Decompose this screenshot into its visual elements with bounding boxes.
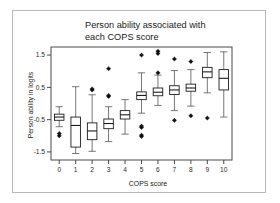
figure-root: Person ability associated with each COPS… bbox=[0, 0, 280, 203]
x-tick-label: 6 bbox=[156, 166, 160, 173]
boxplot-box bbox=[137, 53, 147, 139]
y-tick-label: 0.5 bbox=[36, 84, 45, 91]
x-tick-label: 5 bbox=[140, 166, 144, 173]
x-tick-label: 8 bbox=[189, 166, 193, 173]
boxplot-box bbox=[170, 57, 180, 123]
boxplot-box bbox=[104, 66, 114, 141]
boxplot-box bbox=[87, 87, 97, 152]
y-tick-label: 1.5 bbox=[36, 51, 45, 58]
y-axis: -1.5-0.50.51.5 bbox=[34, 51, 51, 155]
boxplot-box bbox=[203, 52, 213, 120]
box-iqr bbox=[71, 117, 81, 147]
x-tick-label: 2 bbox=[90, 166, 94, 173]
box-iqr bbox=[219, 70, 229, 90]
x-tick-label: 1 bbox=[74, 166, 78, 173]
boxplot-box bbox=[186, 59, 196, 118]
boxplot-series bbox=[54, 49, 228, 154]
x-tick-label: 10 bbox=[220, 166, 228, 173]
boxplot-box bbox=[71, 87, 81, 154]
x-tick-label: 7 bbox=[173, 166, 177, 173]
y-tick-label: -1.5 bbox=[34, 148, 46, 155]
chart-title-line2: each COPS score bbox=[85, 32, 159, 42]
chart-title: Person ability associated with each COPS… bbox=[85, 20, 206, 42]
box-iqr bbox=[203, 67, 213, 77]
boxplot-box bbox=[153, 49, 163, 106]
x-tick-label: 9 bbox=[205, 166, 209, 173]
x-tick-label: 4 bbox=[123, 166, 127, 173]
y-axis-title: Person ability in logits bbox=[27, 71, 35, 138]
x-axis-title: COPS score bbox=[129, 180, 167, 187]
x-tick-label: 0 bbox=[57, 166, 61, 173]
boxplot-box bbox=[54, 107, 64, 138]
x-tick-label: 3 bbox=[107, 166, 111, 173]
x-axis: 012345678910 bbox=[57, 160, 227, 173]
boxplot-box bbox=[120, 100, 130, 135]
y-tick-label: -0.5 bbox=[34, 116, 46, 123]
boxplot-chart: Person ability associated with each COPS… bbox=[0, 0, 280, 203]
boxplot-box bbox=[219, 52, 229, 117]
chart-title-line1: Person ability associated with bbox=[85, 20, 206, 30]
